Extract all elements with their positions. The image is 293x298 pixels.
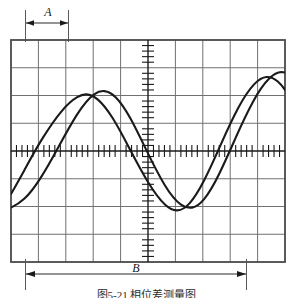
dimension-label-a: A	[41, 6, 55, 18]
figure-caption: 图5-21 相位差测量图	[0, 289, 293, 298]
dimension-label-b: B	[128, 262, 144, 274]
oscilloscope-graticule-figure	[0, 0, 293, 298]
figure-container: A B 图5-21 相位差测量图	[0, 0, 293, 298]
